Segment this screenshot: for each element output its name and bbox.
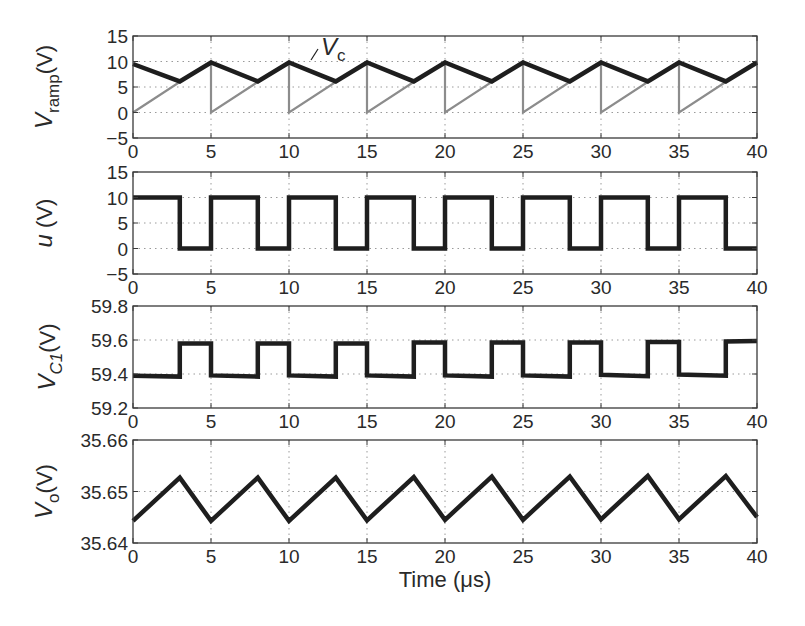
chart-canvas: 151050−50510152025303540Vramp(V)Vc 15105…: [0, 0, 805, 626]
y-tick-label: 35.66: [80, 430, 128, 451]
x-tick-label: 30: [590, 277, 611, 298]
y-tick-label: 59.6: [91, 330, 128, 351]
x-tick-label: 25: [512, 277, 533, 298]
x-tick-label: 20: [434, 546, 455, 567]
y-tick-label: 15: [107, 26, 128, 47]
panel-u: 151050−50510152025303540u (V): [30, 162, 768, 298]
x-tick-label: 20: [434, 411, 455, 432]
x-tick-label: 35: [668, 546, 689, 567]
y-axis-label: VC1(V): [33, 323, 66, 390]
x-tick-label: 30: [590, 141, 611, 162]
series-v-c1: [133, 341, 757, 377]
x-tick-label: 20: [434, 277, 455, 298]
x-tick-label: 40: [746, 546, 767, 567]
y-tick-label: 0: [117, 103, 128, 124]
x-tick-label: 0: [128, 141, 139, 162]
y-tick-label: 35.65: [80, 482, 128, 503]
x-tick-label: 25: [512, 141, 533, 162]
x-tick-label: 40: [746, 277, 767, 298]
x-tick-label: 15: [356, 141, 377, 162]
y-tick-label: 59.8: [91, 296, 128, 317]
y-tick-label: 10: [107, 188, 128, 209]
y-axis-label: Vo(V): [30, 464, 63, 519]
x-tick-label: 0: [128, 277, 139, 298]
x-tick-label: 10: [278, 277, 299, 298]
x-tick-label: 40: [746, 411, 767, 432]
x-tick-label: 40: [746, 141, 767, 162]
y-tick-label: 5: [117, 213, 128, 234]
figure: 151050−50510152025303540Vramp(V)Vc 15105…: [0, 0, 805, 626]
x-axis-label: Time (μs): [399, 567, 492, 592]
x-tick-label: 25: [512, 546, 533, 567]
grid: [133, 440, 757, 543]
x-tick-label: 35: [668, 277, 689, 298]
y-tick-label: 59.2: [91, 398, 128, 419]
x-tick-label: 10: [278, 411, 299, 432]
y-tick-label: −5: [106, 264, 128, 285]
y-tick-label: 59.4: [91, 364, 128, 385]
y-axis-label: Vramp(V): [30, 45, 63, 129]
y-tick-label: 15: [107, 162, 128, 183]
x-tick-label: 10: [278, 546, 299, 567]
x-tick-label: 20: [434, 141, 455, 162]
y-tick-label: 5: [117, 77, 128, 98]
x-tick-label: 15: [356, 411, 377, 432]
x-tick-label: 25: [512, 411, 533, 432]
x-tick-label: 35: [668, 411, 689, 432]
y-axis-label: u (V): [30, 199, 57, 248]
y-tick-label: 35.64: [80, 533, 128, 554]
x-tick-label: 10: [278, 141, 299, 162]
x-tick-label: 30: [590, 411, 611, 432]
x-tick-label: 0: [128, 411, 139, 432]
y-tick-label: 10: [107, 52, 128, 73]
x-tick-label: 5: [206, 141, 217, 162]
panel-vo: 35.6635.6535.640510152025303540Vo(V): [30, 430, 768, 567]
x-tick-label: 35: [668, 141, 689, 162]
x-tick-label: 5: [206, 411, 217, 432]
y-tick-label: 0: [117, 239, 128, 260]
annotation-pointer: [311, 49, 318, 60]
x-tick-label: 15: [356, 277, 377, 298]
x-tick-label: 0: [128, 546, 139, 567]
series-v-o: [133, 476, 757, 521]
panel-vc1: 59.859.659.459.20510152025303540VC1(V): [33, 296, 768, 432]
x-tick-label: 5: [206, 546, 217, 567]
y-tick-label: −5: [106, 128, 128, 149]
x-tick-label: 5: [206, 277, 217, 298]
x-tick-label: 30: [590, 546, 611, 567]
panel-vramp: 151050−50510152025303540Vramp(V)Vc: [30, 26, 768, 162]
vc-annotation: Vc: [321, 33, 346, 65]
x-tick-label: 15: [356, 546, 377, 567]
